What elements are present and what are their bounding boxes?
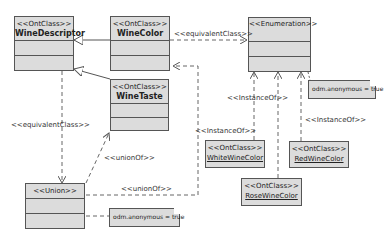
class-wine-color[interactable]: <<OntClass>> WineColor (110, 16, 170, 71)
operations-compartment (111, 117, 168, 118)
note-text: odm.anonymous = true (312, 85, 383, 92)
instance-name: WhiteWineColor (206, 153, 264, 163)
operations-compartment (26, 213, 84, 214)
attributes-compartment (26, 198, 84, 199)
label-equivalent-class-left: <<equivalentClass>> (11, 121, 90, 129)
attributes-compartment (249, 41, 310, 42)
instance-white-wine-color[interactable]: <<OntClass>> WhiteWineColor (205, 140, 265, 168)
attributes-compartment (111, 40, 169, 41)
instance-rose-wine-color[interactable]: <<OntClass>> RoseWineColor (241, 178, 302, 206)
class-name: WineColor (111, 29, 169, 38)
note-union-anonymous[interactable]: odm.anonymous = true (109, 208, 180, 227)
label-union-of-upper: <<unionOf>> (104, 154, 155, 162)
instance-red-wine-color[interactable]: <<OntClass>> RedWineColor (289, 141, 349, 168)
label-instance-of-red: <<InstanceOf>> (305, 116, 366, 124)
attributes-compartment (15, 40, 73, 41)
instance-name: RedWineColor (290, 154, 348, 164)
operations-compartment (249, 56, 310, 57)
instance-name: RoseWineColor (242, 191, 301, 201)
note-text: odm.anonymous = true (113, 213, 184, 220)
generalization-winetaste (74, 69, 110, 79)
label-instance-of-white: <<InstanceOf>> (195, 127, 256, 135)
stereotype: <<Enumeration>> (249, 20, 310, 29)
note-fold-icon (174, 208, 180, 214)
note-fold-icon (370, 80, 376, 86)
note-enumeration-anonymous[interactable]: odm.anonymous = true (308, 80, 376, 99)
class-wine-taste[interactable]: <<OntClass>> WineTaste (110, 79, 169, 131)
class-enumeration[interactable]: <<Enumeration>> (248, 17, 311, 72)
class-wine-descriptor[interactable]: <<OntClass>> WineDescriptor (14, 16, 74, 71)
stereotype: <<OntClass>> (242, 181, 301, 191)
operations-compartment (111, 55, 169, 56)
stereotype: <<OntClass>> (206, 143, 264, 153)
stereotype: <<OntClass>> (111, 83, 168, 92)
stereotype: <<OntClass>> (111, 20, 169, 29)
label-equivalent-class-top: <<equivalentClass>> (174, 30, 253, 38)
class-name: WineTaste (111, 92, 168, 101)
class-union[interactable]: <<Union>> (25, 183, 85, 229)
stereotype: <<Union>> (26, 187, 84, 196)
class-name: WineDescriptor (15, 29, 73, 38)
operations-compartment (15, 55, 73, 56)
attributes-compartment (111, 103, 168, 104)
label-instance-of-mid: <<InstanceOf>> (227, 94, 288, 102)
stereotype: <<OntClass>> (15, 20, 73, 29)
label-union-of-lower: <<unionOf>> (121, 185, 172, 193)
stereotype: <<OntClass>> (290, 144, 348, 154)
